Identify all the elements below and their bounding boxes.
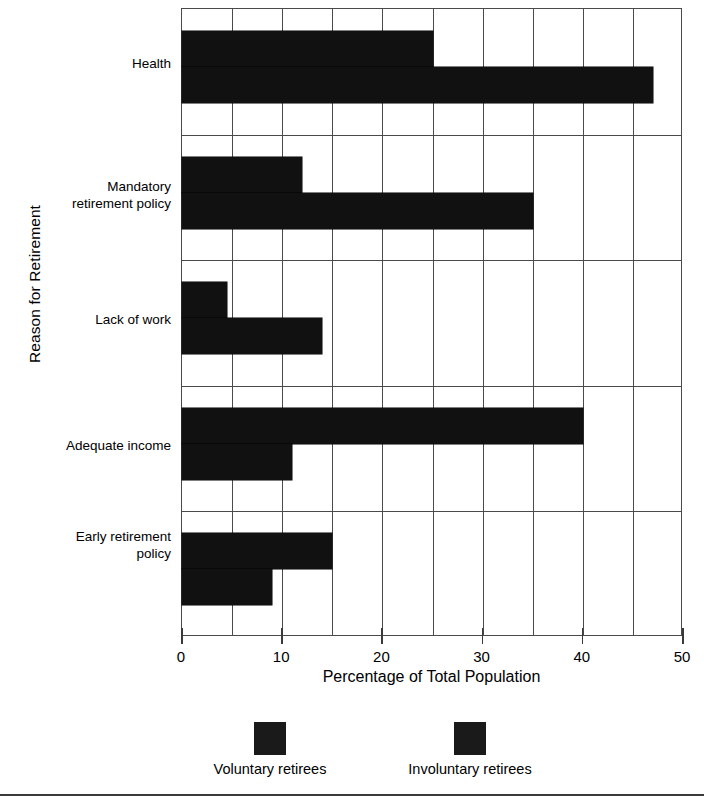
bar-involuntary[interactable] [182,193,533,229]
x-tick-mark [281,628,283,644]
chart-legend: Voluntary retirees Involuntary retirees [0,722,704,782]
y-tick-label-line1: Health [1,55,171,72]
x-tick-label: 30 [452,648,512,665]
x-tick-label: 10 [251,648,311,665]
x-tick-mark [682,628,684,644]
legend-item-voluntary-retirees: Voluntary retirees [180,722,360,777]
x-tick-label: 0 [151,648,211,665]
y-tick-label-mandatory-retirement-policy: Mandatory retirement policy [1,178,171,212]
bar-voluntary[interactable] [182,31,433,67]
bar-group [182,135,681,261]
y-tick-label-early-retirement-policy: Early retirement policy [1,528,171,562]
y-tick-label-line1: Adequate income [1,437,171,454]
x-tick-mark [482,628,484,644]
x-tick-mark [582,628,584,644]
legend-swatch-voluntary [254,722,286,755]
x-axis-title: Percentage of Total Population [181,668,682,686]
bar-voluntary[interactable] [182,282,227,318]
y-tick-label-line1: Early retirement [1,528,171,545]
y-tick-label-adequate-income: Adequate income [1,437,171,454]
y-tick-label-lack-of-work: Lack of work [1,311,171,328]
bar-group [182,260,681,386]
legend-label-voluntary: Voluntary retirees [180,761,360,777]
x-tick-label: 20 [351,648,411,665]
y-tick-label-line2: retirement policy [1,195,171,212]
bar-voluntary[interactable] [182,408,583,444]
bar-involuntary[interactable] [182,569,272,605]
x-tick-label: 50 [652,648,704,665]
bottom-divider [0,794,704,796]
bar-involuntary[interactable] [182,67,653,103]
plot-area [181,8,682,636]
legend-item-involuntary-retirees: Involuntary retirees [370,722,570,777]
legend-swatch-involuntary [454,722,486,755]
y-tick-label-line1: Lack of work [1,311,171,328]
x-tick-mark [181,628,183,644]
legend-label-involuntary: Involuntary retirees [370,761,570,777]
bar-voluntary[interactable] [182,157,302,193]
bar-chart-figure: Reason for Retirement Health Mandatory r… [0,0,704,802]
y-tick-label-health: Health [1,55,171,72]
bar-group [182,386,681,512]
y-tick-label-line2: policy [1,545,171,562]
x-tick-label: 40 [552,648,612,665]
bar-voluntary[interactable] [182,533,332,569]
bar-group [182,9,681,135]
bar-involuntary[interactable] [182,318,322,354]
x-tick-mark [381,628,383,644]
bar-involuntary[interactable] [182,444,292,480]
y-tick-label-line1: Mandatory [1,178,171,195]
bar-group [182,511,681,637]
